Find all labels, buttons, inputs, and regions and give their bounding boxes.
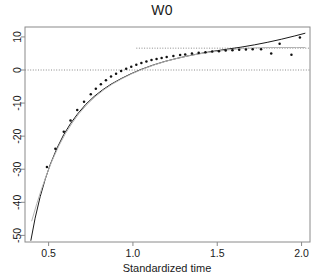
x-tick-label: 1.0: [126, 247, 141, 259]
data-point: [130, 65, 133, 68]
data-point: [125, 67, 128, 70]
data-point: [46, 166, 49, 169]
data-points-group: [46, 36, 301, 168]
y-tick-label: -10: [11, 95, 23, 110]
data-point: [54, 147, 57, 150]
data-point: [184, 53, 187, 56]
data-point: [191, 52, 194, 55]
data-point: [120, 70, 123, 73]
fitted-curves-group: [31, 33, 305, 240]
y-tick-label: 10: [11, 31, 23, 43]
data-point: [179, 54, 182, 57]
curve-fitted-gray: [32, 48, 305, 221]
y-tick-label: -50: [11, 228, 23, 243]
data-point: [63, 131, 66, 134]
plot-frame: [25, 27, 310, 242]
data-point: [135, 63, 138, 66]
data-point: [245, 48, 248, 51]
curve-fitted-dark: [31, 33, 305, 240]
chart-container: W0 0.51.01.52.0 100-10-20-30-40-50 Stand…: [0, 0, 324, 278]
data-point: [238, 49, 241, 52]
y-tick-label: 0: [11, 67, 23, 73]
data-point: [100, 83, 103, 86]
data-point: [95, 88, 98, 91]
data-point: [299, 36, 302, 39]
y-tick-label: -30: [11, 161, 23, 176]
x-axis-title: Standardized time: [123, 262, 212, 274]
data-point: [231, 49, 234, 52]
data-point: [105, 79, 108, 82]
data-point: [155, 58, 158, 61]
data-point: [290, 54, 293, 57]
x-axis: 0.51.01.52.0: [41, 242, 309, 259]
data-point: [115, 72, 118, 75]
x-tick-label: 1.5: [210, 247, 225, 259]
reference-lines-group: [25, 48, 310, 70]
x-tick-label: 0.5: [41, 247, 56, 259]
data-point: [76, 109, 79, 112]
data-point: [172, 55, 175, 58]
data-point: [140, 62, 143, 65]
data-point: [211, 50, 214, 53]
data-point: [83, 101, 86, 104]
data-point: [165, 56, 168, 59]
y-axis: 100-10-20-30-40-50: [11, 31, 25, 243]
x-tick-label: 2.0: [294, 247, 309, 259]
data-point: [218, 50, 221, 53]
plot-canvas: 0.51.01.52.0 100-10-20-30-40-50 Standard…: [0, 0, 324, 278]
y-tick-label: -20: [11, 128, 23, 143]
data-point: [278, 43, 281, 46]
data-point: [150, 59, 153, 62]
data-point: [145, 60, 148, 63]
data-point: [251, 48, 254, 51]
data-point: [270, 52, 273, 55]
data-point: [204, 51, 207, 54]
data-point: [160, 57, 163, 60]
data-point: [224, 49, 227, 52]
data-point: [197, 52, 200, 55]
data-point: [110, 75, 113, 78]
data-point: [90, 93, 93, 96]
y-tick-label: -40: [11, 195, 23, 210]
data-point: [260, 48, 263, 51]
data-point: [69, 119, 72, 122]
